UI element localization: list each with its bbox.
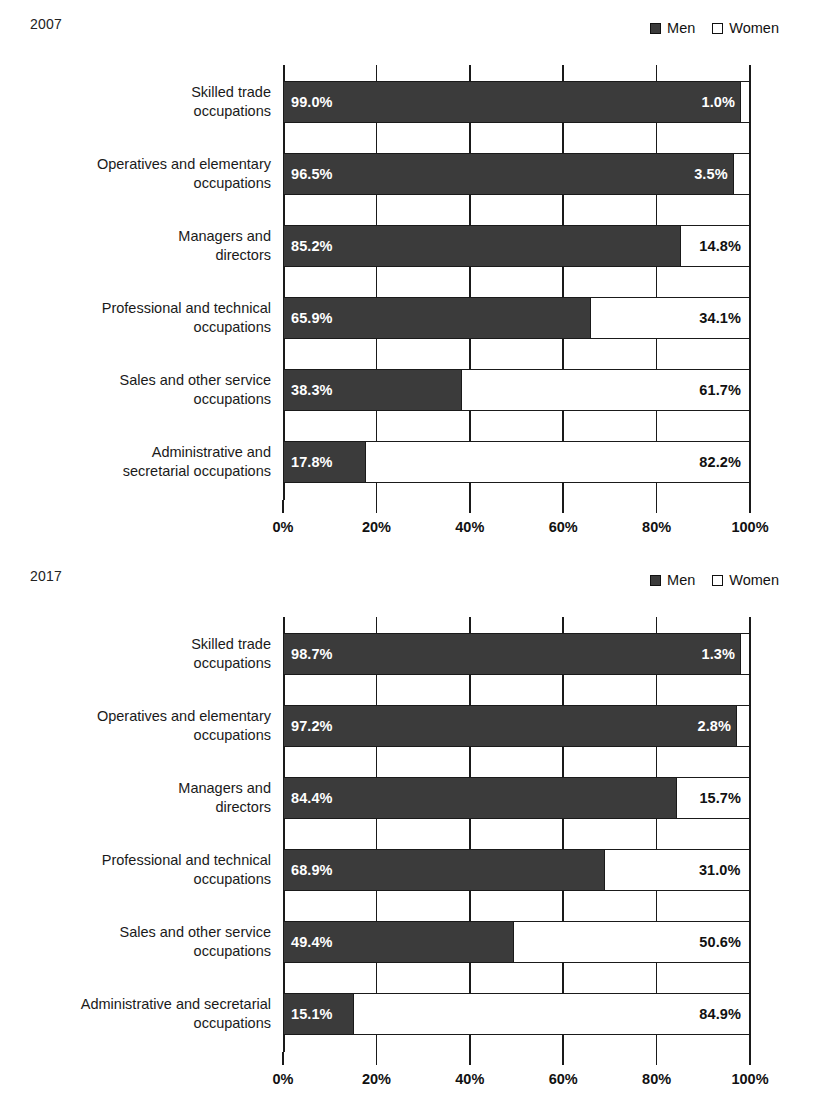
x-axis-tick-label: 60% — [549, 1071, 578, 1087]
bar-value-men: 38.3% — [291, 382, 333, 398]
bar-value-men: 15.1% — [291, 1006, 333, 1022]
x-axis: 0%20%40%60%80%100% — [283, 500, 750, 546]
x-axis-tick — [749, 1052, 751, 1065]
x-axis-tick — [562, 1052, 564, 1065]
open-square-icon — [712, 23, 723, 34]
bar-value-women: 61.7% — [699, 382, 741, 398]
chart-year-title: 2017 — [30, 568, 62, 584]
category-label: Operatives and elementaryoccupations — [0, 707, 271, 745]
bar-segment-women: 14.8% — [681, 225, 750, 267]
bar-segment-women: 1.3% — [741, 633, 750, 675]
bar-row: Sales and other serviceoccupations38.3%6… — [283, 369, 750, 411]
bar-segment-women: 1.0% — [741, 81, 750, 123]
category-label: Administrative andsecretarial occupation… — [0, 443, 271, 481]
legend-entry-men: Men — [650, 20, 695, 36]
bar-value-men: 98.7% — [291, 646, 333, 662]
x-axis-tick — [562, 500, 564, 513]
category-label: Managers anddirectors — [0, 779, 271, 817]
bar-rows: Skilled tradeoccupations99.0%1.0%Operati… — [283, 65, 750, 500]
bar-row: Professional and technicaloccupations65.… — [283, 297, 750, 339]
chart-year-title: 2007 — [30, 16, 62, 32]
bar-value-women: 1.3% — [702, 646, 735, 662]
bar-row: Managers anddirectors85.2%14.8% — [283, 225, 750, 267]
bar-value-women: 82.2% — [699, 454, 741, 470]
x-axis-tick-label: 20% — [362, 1071, 391, 1087]
open-square-icon — [712, 575, 723, 586]
bar-segment-men: 68.9% — [283, 849, 605, 891]
chart-legend: Men Women — [650, 572, 779, 588]
x-axis-tick-label: 100% — [731, 1071, 768, 1087]
bar-segment-women: 2.8% — [737, 705, 750, 747]
legend-label-men: Men — [667, 572, 695, 588]
filled-square-icon — [650, 23, 661, 34]
x-axis-tick-label: 40% — [455, 1071, 484, 1087]
bar-value-women: 31.0% — [699, 862, 741, 878]
chart-legend: Men Women — [650, 20, 779, 36]
x-axis-tick-label: 100% — [731, 519, 768, 535]
bar-value-women: 50.6% — [699, 934, 741, 950]
bar-segment-women: 50.6% — [514, 921, 750, 963]
bar-value-women: 3.5% — [694, 166, 727, 182]
x-axis-tick — [656, 500, 658, 513]
bar-value-men: 97.2% — [291, 718, 333, 734]
bar-value-men: 68.9% — [291, 862, 333, 878]
category-label: Administrative and secretarialoccupation… — [0, 995, 271, 1033]
legend-entry-men: Men — [650, 572, 695, 588]
x-axis: 0%20%40%60%80%100% — [283, 1052, 750, 1098]
legend-entry-women: Women — [712, 572, 779, 588]
x-axis-tick — [469, 500, 471, 513]
plot-area: Skilled tradeoccupations98.7%1.3%Operati… — [283, 617, 750, 1052]
bar-value-women: 2.8% — [697, 718, 730, 734]
legend-entry-women: Women — [712, 20, 779, 36]
x-axis-tick-label: 40% — [455, 519, 484, 535]
bar-value-men: 17.8% — [291, 454, 333, 470]
x-axis-tick — [376, 1052, 378, 1065]
bar-value-men: 96.5% — [291, 166, 333, 182]
x-axis-tick-label: 0% — [273, 1071, 294, 1087]
bar-value-men: 84.4% — [291, 790, 333, 806]
bar-row: Administrative and secretarialoccupation… — [283, 993, 750, 1035]
category-label: Professional and technicaloccupations — [0, 851, 271, 889]
legend-label-men: Men — [667, 20, 695, 36]
x-axis-tick-label: 0% — [273, 519, 294, 535]
x-axis-tick — [376, 500, 378, 513]
bar-row: Managers anddirectors84.4%15.7% — [283, 777, 750, 819]
bar-value-women: 84.9% — [699, 1006, 741, 1022]
category-label: Skilled tradeoccupations — [0, 83, 271, 121]
bar-rows: Skilled tradeoccupations98.7%1.3%Operati… — [283, 617, 750, 1052]
bar-segment-men: 96.5% — [283, 153, 734, 195]
bar-row: Sales and other serviceoccupations49.4%5… — [283, 921, 750, 963]
x-axis-tick-label: 80% — [642, 519, 671, 535]
bar-value-women: 1.0% — [702, 94, 735, 110]
bar-row: Skilled tradeoccupations99.0%1.0% — [283, 81, 750, 123]
bar-segment-men: 98.7% — [283, 633, 741, 675]
bar-segment-women: 34.1% — [591, 297, 750, 339]
bar-segment-men: 15.1% — [283, 993, 354, 1035]
bar-segment-women: 3.5% — [734, 153, 750, 195]
category-label: Professional and technicaloccupations — [0, 299, 271, 337]
category-label: Skilled tradeoccupations — [0, 635, 271, 673]
category-label: Sales and other serviceoccupations — [0, 923, 271, 961]
x-axis-tick-label: 60% — [549, 519, 578, 535]
x-axis-tick-label: 80% — [642, 1071, 671, 1087]
bar-segment-men: 38.3% — [283, 369, 462, 411]
bar-segment-women: 15.7% — [677, 777, 750, 819]
bar-segment-men: 85.2% — [283, 225, 681, 267]
bar-segment-women: 82.2% — [366, 441, 750, 483]
plot-area: Skilled tradeoccupations99.0%1.0%Operati… — [283, 65, 750, 500]
bar-value-women: 15.7% — [699, 790, 741, 806]
bar-value-men: 99.0% — [291, 94, 333, 110]
category-label: Operatives and elementaryoccupations — [0, 155, 271, 193]
bar-segment-men: 49.4% — [283, 921, 514, 963]
bar-row: Operatives and elementaryoccupations97.2… — [283, 705, 750, 747]
x-axis-tick — [282, 1052, 284, 1065]
x-axis-tick — [749, 500, 751, 513]
bar-segment-men: 65.9% — [283, 297, 591, 339]
x-axis-tick — [656, 1052, 658, 1065]
x-axis-tick-label: 20% — [362, 519, 391, 535]
bar-row: Operatives and elementaryoccupations96.5… — [283, 153, 750, 195]
bar-row: Skilled tradeoccupations98.7%1.3% — [283, 633, 750, 675]
bar-segment-men: 97.2% — [283, 705, 737, 747]
filled-square-icon — [650, 575, 661, 586]
category-label: Managers anddirectors — [0, 227, 271, 265]
